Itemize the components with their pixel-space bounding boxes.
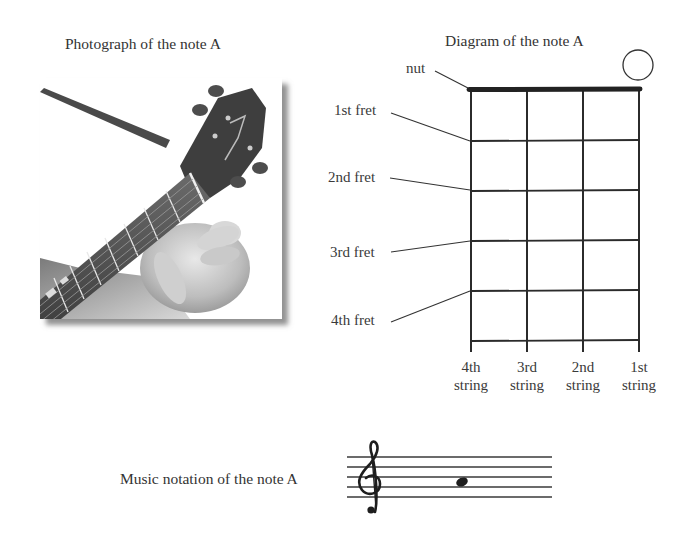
treble-clef-dot bbox=[367, 506, 374, 513]
fret2-leader-line bbox=[390, 178, 470, 190]
fret-line-5 bbox=[471, 340, 639, 341]
treble-clef-icon bbox=[359, 442, 380, 512]
fret3-leader-line bbox=[391, 241, 470, 252]
nut-label: nut bbox=[406, 61, 425, 76]
string-label-3: 3rd string bbox=[497, 358, 557, 394]
notation-caption: Music notation of the note A bbox=[120, 471, 298, 487]
note-a-head bbox=[455, 476, 469, 488]
fret1-leader-line bbox=[391, 113, 470, 141]
fret4-leader-line bbox=[391, 291, 470, 322]
string-label-3-word: string bbox=[497, 376, 557, 394]
fret-label-1: 1st fret bbox=[334, 103, 376, 118]
string-label-2-number: 2nd bbox=[553, 358, 613, 376]
nut-leader-line bbox=[435, 71, 468, 88]
string-label-1: 1st string bbox=[609, 358, 669, 394]
string-label-4-word: string bbox=[441, 376, 501, 394]
open-string-circle-icon bbox=[623, 50, 653, 80]
fret-line-4 bbox=[471, 290, 639, 291]
fret-label-2: 2nd fret bbox=[328, 170, 375, 185]
string-label-2: 2nd string bbox=[553, 358, 613, 394]
fret-label-4: 4th fret bbox=[331, 313, 375, 328]
string-label-4-number: 4th bbox=[441, 358, 501, 376]
fret-line-1 bbox=[471, 140, 639, 141]
fret-line-3 bbox=[471, 240, 639, 241]
string-label-2-word: string bbox=[553, 376, 613, 394]
string-label-4: 4th string bbox=[441, 358, 501, 394]
string-label-3-number: 3rd bbox=[497, 358, 557, 376]
fret-line-2 bbox=[471, 190, 639, 191]
fretboard-diagram bbox=[0, 0, 693, 400]
fret-label-3: 3rd fret bbox=[330, 245, 375, 260]
nut-bar bbox=[469, 89, 640, 90]
string-label-1-number: 1st bbox=[609, 358, 669, 376]
string-label-1-word: string bbox=[609, 376, 669, 394]
